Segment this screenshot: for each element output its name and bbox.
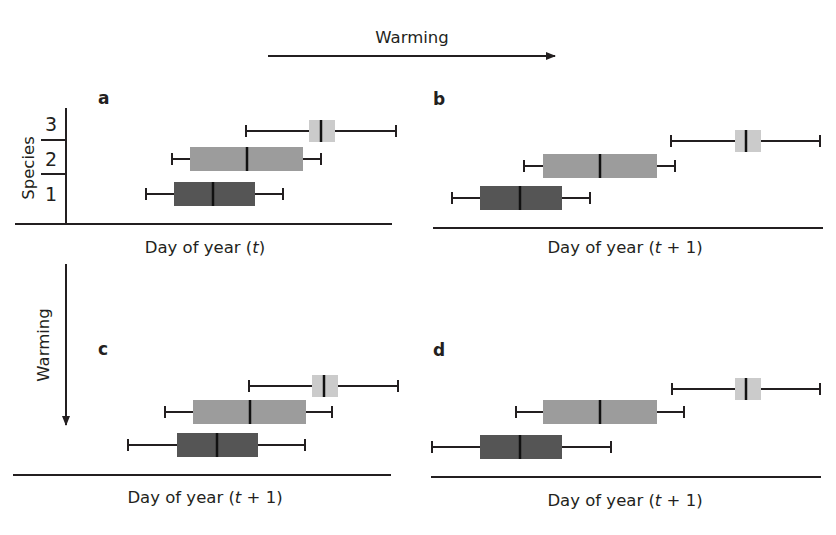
- iqr-box: [174, 182, 255, 206]
- boxplot-species-2: [165, 400, 332, 424]
- panel-d: dDay of year (t + 1): [431, 340, 821, 510]
- species-tick-2: 2: [45, 148, 57, 170]
- iqr-box: [735, 130, 761, 152]
- panel-letter: b: [433, 89, 445, 109]
- iqr-box: [735, 378, 761, 400]
- y-axis-label: Species: [19, 136, 38, 200]
- top-warming-label: Warming: [375, 28, 448, 47]
- x-axis-label: Day of year (t): [145, 238, 265, 257]
- figure-canvas: Warming Warming 1 2 3 Species aDay of ye…: [0, 0, 836, 535]
- boxplot-species-1: [128, 433, 305, 457]
- panel-a-y-axis: 1 2 3 Species: [19, 108, 66, 224]
- boxplot-species-2: [172, 147, 321, 171]
- boxplot-species-2: [524, 154, 675, 178]
- panel-a: aDay of year (t): [15, 88, 396, 257]
- top-warming-arrow: Warming: [268, 28, 555, 56]
- boxplot-species-3: [246, 120, 396, 142]
- boxplot-species-3: [249, 375, 398, 397]
- x-axis-label: Day of year (t + 1): [547, 238, 702, 257]
- left-warming-arrow: Warming: [34, 264, 66, 425]
- species-tick-1: 1: [45, 183, 57, 205]
- panel-letter: a: [98, 88, 109, 108]
- panel-c: cDay of year (t + 1): [13, 339, 398, 507]
- x-axis-label: Day of year (t + 1): [547, 491, 702, 510]
- panel-letter: c: [98, 339, 108, 359]
- boxplot-species-1: [146, 182, 283, 206]
- panel-letter: d: [433, 340, 445, 360]
- boxplot-species-3: [671, 130, 820, 152]
- boxplot-species-3: [672, 378, 820, 400]
- boxplot-species-1: [452, 186, 590, 210]
- panels: aDay of year (t)bDay of year (t + 1)cDay…: [13, 88, 823, 510]
- panel-b: bDay of year (t + 1): [433, 89, 823, 257]
- boxplot-species-2: [516, 400, 684, 424]
- left-warming-label: Warming: [34, 308, 53, 381]
- species-tick-3: 3: [45, 113, 57, 135]
- x-axis-label: Day of year (t + 1): [127, 488, 282, 507]
- boxplot-species-1: [432, 435, 611, 459]
